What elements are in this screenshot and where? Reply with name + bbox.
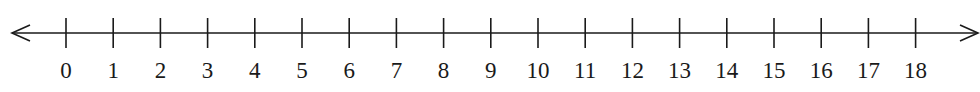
tick-label: 2 <box>155 58 167 83</box>
tick-label: 5 <box>296 58 308 83</box>
tick-label: 10 <box>527 58 550 83</box>
tick-label: 15 <box>763 58 786 83</box>
number-line: 0123456789101112131415161718 <box>0 0 980 92</box>
tick-label: 12 <box>621 58 644 83</box>
tick-label: 1 <box>107 58 119 83</box>
tick-label: 13 <box>668 58 691 83</box>
tick-label: 9 <box>485 58 497 83</box>
tick-label: 0 <box>60 58 72 83</box>
tick-label: 18 <box>904 58 927 83</box>
tick-label: 3 <box>202 58 214 83</box>
tick-label: 8 <box>438 58 450 83</box>
tick-label: 6 <box>343 58 355 83</box>
tick-label: 16 <box>810 58 833 83</box>
tick-label: 4 <box>249 58 261 83</box>
tick-labels: 0123456789101112131415161718 <box>60 58 927 83</box>
tick-label: 11 <box>574 58 596 83</box>
tick-label: 17 <box>857 58 880 83</box>
tick-label: 14 <box>715 58 739 83</box>
tick-label: 7 <box>391 58 403 83</box>
